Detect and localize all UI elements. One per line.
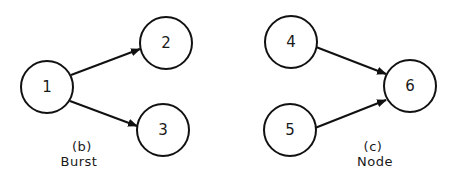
edge-4-to-6 <box>316 47 386 74</box>
node-4-label: 4 <box>286 33 296 51</box>
node-4: 4 <box>265 16 317 68</box>
burst-caption-title: Burst <box>61 154 98 169</box>
node-2: 2 <box>140 17 192 69</box>
node-1-label: 1 <box>42 78 52 96</box>
node-3: 3 <box>137 104 189 156</box>
node-1: 1 <box>21 61 73 113</box>
network-diagram: 1 2 3 (b) Burst 4 5 6 (c) Node <box>0 0 455 177</box>
node-6-label: 6 <box>405 77 415 95</box>
node-3-label: 3 <box>158 121 168 139</box>
node-diagram: 4 5 6 (c) Node <box>264 16 436 169</box>
edge-5-to-6 <box>315 100 386 128</box>
edge-1-to-3 <box>70 101 137 126</box>
node-6: 6 <box>384 60 436 112</box>
burst-diagram: 1 2 3 (b) Burst <box>21 17 192 169</box>
node-5: 5 <box>264 104 316 156</box>
node-5-label: 5 <box>285 121 295 139</box>
node-caption-title: Node <box>357 154 393 169</box>
edge-1-to-2 <box>71 49 140 75</box>
node-caption-letter: (c) <box>364 139 383 154</box>
burst-caption-letter: (b) <box>72 139 92 154</box>
node-2-label: 2 <box>161 34 171 52</box>
